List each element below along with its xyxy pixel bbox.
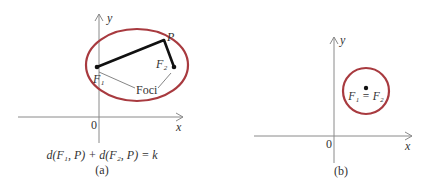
x-axis-label: x [404, 139, 411, 153]
point-p-label: P [166, 30, 175, 44]
origin-label: 0 [326, 137, 332, 151]
figure-a: y x 0 P F₁ F₂ Foci d(F₁, P) + d(F₂, P) =… [18, 11, 188, 177]
foci-leader-2 [158, 73, 171, 88]
x-axis-label: x [175, 120, 182, 134]
y-axis-label: y [106, 11, 113, 25]
focus-1-point [95, 65, 100, 70]
equation: d(F₁, P) + d(F₂, P) = k [46, 148, 158, 162]
ellipse-figure: y x 0 P F₁ F₂ Foci d(F₁, P) + d(F₂, P) =… [0, 0, 427, 184]
origin-label: 0 [91, 118, 97, 132]
focus-1-label: F₁ [92, 72, 105, 86]
foci-label: Foci [136, 83, 158, 97]
y-axis-label: y [339, 33, 346, 47]
caption-b: (b) [334, 164, 348, 178]
figure-b: y x 0 F₁ = F₂ (b) [254, 33, 412, 178]
caption-a: (a) [95, 163, 108, 177]
focus-2-label: F₂ [155, 57, 168, 71]
focus-2-point [172, 65, 177, 70]
foci-label: F₁ = F₂ [347, 90, 384, 102]
